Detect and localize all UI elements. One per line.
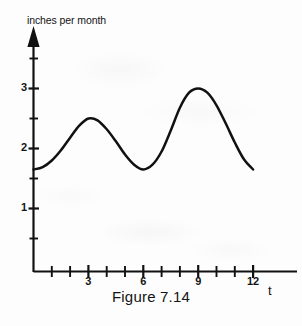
x-tick-label-6: 6 xyxy=(135,276,151,287)
y-axis-arrowhead-icon xyxy=(27,26,39,47)
x-tick-label-9: 9 xyxy=(190,276,206,287)
x-tick-label-12: 12 xyxy=(245,276,261,287)
rainfall-curve xyxy=(34,89,254,170)
x-tick-label-3: 3 xyxy=(80,276,96,287)
y-tick-label-3: 3 xyxy=(13,82,27,93)
figure-caption: Figure 7.14 xyxy=(0,288,302,305)
y-tick-label-1: 1 xyxy=(13,202,27,213)
figure-container: 3 2 1 3 6 9 12 inches per month t Figure… xyxy=(0,0,302,326)
y-axis-title: inches per month xyxy=(27,14,106,26)
y-tick-label-2: 2 xyxy=(13,142,27,153)
